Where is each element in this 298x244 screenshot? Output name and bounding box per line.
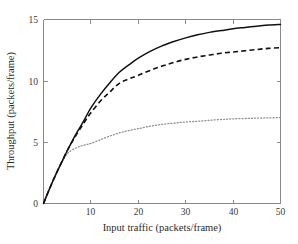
y-tick-label-10: 10 (29, 77, 39, 87)
series-dashed-curve (44, 48, 281, 204)
y-tick-marks (44, 20, 281, 204)
chart-figure: 10 20 30 40 50 0 5 10 15 Input traffic (… (0, 0, 298, 244)
x-tick-label-50: 50 (276, 207, 286, 217)
series-dotted-curve (44, 118, 281, 204)
x-tick-label-20: 20 (134, 207, 144, 217)
x-tick-marks (91, 20, 281, 204)
x-tick-label-30: 30 (181, 207, 191, 217)
y-tick-label-0: 0 (33, 199, 38, 209)
x-axis-title: Input traffic (packets/frame) (103, 222, 222, 234)
throughput-vs-input-traffic-chart: 10 20 30 40 50 0 5 10 15 Input traffic (… (0, 0, 298, 244)
y-axis-title: Throughput (packets/frame) (5, 51, 17, 170)
data-series-group (44, 24, 281, 203)
x-tick-label-40: 40 (229, 207, 239, 217)
y-tick-label-5: 5 (33, 138, 38, 148)
axis-frame (44, 20, 281, 204)
y-tick-label-15: 15 (29, 15, 39, 25)
x-tick-label-10: 10 (86, 207, 96, 217)
